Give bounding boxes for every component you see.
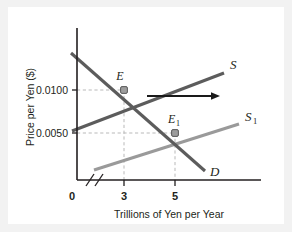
- point-label-E1: E: [167, 112, 176, 126]
- y-axis-title: Price per Yen ($): [24, 68, 36, 146]
- x-origin-label: 0: [69, 190, 75, 202]
- curve-label-D: D: [209, 164, 220, 179]
- marker-equilibrium-E: [121, 87, 128, 94]
- x-tick-label-3: 3: [121, 190, 127, 202]
- figure-root: 0.0100 0.0050 0 3 5 Trillions of Yen per…: [0, 0, 292, 232]
- guide-lines: [77, 90, 175, 180]
- point-label-E: E: [115, 69, 124, 83]
- curves: [71, 53, 239, 171]
- curve-label-S1-subscript: 1: [253, 116, 257, 126]
- x-tick-label-5: 5: [172, 190, 178, 202]
- axes: [72, 28, 261, 186]
- curve-label-S1: S: [245, 109, 252, 124]
- curve-label-S: S: [230, 57, 237, 72]
- x-axis-title: Trillions of Yen per Year: [114, 208, 224, 220]
- supply-demand-chart: 0.0100 0.0050 0 3 5 Trillions of Yen per…: [8, 7, 284, 224]
- shift-arrow-head: [211, 92, 220, 100]
- y-tick-label-0.0100: 0.0100: [36, 84, 68, 96]
- curve-demand: [71, 53, 205, 171]
- marker-equilibrium-E1: [172, 130, 179, 137]
- point-label-E1-subscript: 1: [176, 119, 180, 128]
- figure-panel: 0.0100 0.0050 0 3 5 Trillions of Yen per…: [8, 7, 284, 224]
- y-tick-label-0.0050: 0.0050: [36, 127, 68, 139]
